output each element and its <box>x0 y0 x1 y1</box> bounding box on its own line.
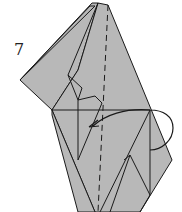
folded-paper-model <box>20 3 172 212</box>
origami-diagram <box>0 0 182 212</box>
